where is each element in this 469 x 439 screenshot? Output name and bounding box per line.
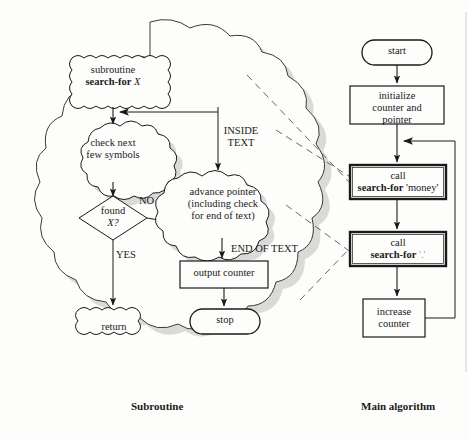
node-return-label: return: [78, 321, 150, 333]
node-call-search-for-period-label: call search-for '.': [348, 237, 448, 261]
node-stop-label: stop: [190, 314, 260, 326]
edge-label-inside-text: INSIDE TEXT: [213, 125, 269, 148]
node-subroutine-entry-label: subroutine search-for X: [63, 64, 163, 88]
call-money-keyword: search-for: [358, 182, 404, 193]
node-initialize-label: initialize counter and pointer: [350, 90, 444, 125]
edge-label-yes: YES: [116, 249, 136, 261]
caption-subroutine: Subroutine: [131, 400, 183, 412]
call-money-argument: 'money': [406, 182, 438, 193]
caption-main-algorithm: Main algorithm: [361, 400, 435, 412]
call-period-keyword: search-for: [371, 249, 417, 260]
entry-keyword: search-for: [86, 76, 132, 87]
node-decision-label: found X?: [78, 205, 148, 229]
call-period-argument: '.': [419, 249, 425, 260]
node-start-label: start: [362, 45, 432, 57]
node-increase-counter-label: increase counter: [363, 306, 425, 330]
edge-label-end-of-text: END OF TEXT: [231, 243, 298, 255]
figure-canvas: subroutine search-for X check next few s…: [0, 0, 469, 439]
edge-label-no: NO: [139, 195, 154, 207]
node-advance-pointer-label: advance pointer (including check for end…: [163, 186, 283, 221]
node-output-counter-label: output counter: [180, 267, 268, 279]
node-call-search-for-money-label: call search-for 'money': [348, 170, 448, 194]
entry-variable: X: [134, 76, 140, 87]
node-check-symbols-label: check next few symbols: [63, 137, 163, 161]
